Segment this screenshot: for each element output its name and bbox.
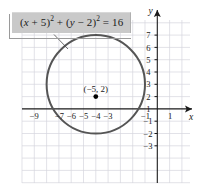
x-tick-label--3: −3: [104, 111, 113, 121]
equation-plus-inner: +: [29, 16, 41, 28]
x-tick-label--7: −7: [55, 111, 64, 121]
leader-line: [54, 35, 68, 50]
equation-label: (x + 5)2 + (y − 2)2 = 16: [12, 12, 131, 33]
y-tick-label-5: 5: [146, 55, 150, 65]
y-tick-label--2: −2: [143, 129, 152, 139]
y-tick-label--3: −3: [143, 141, 152, 151]
x-tick-label--5: −5: [79, 111, 88, 121]
y-tick-label-3: 3: [146, 79, 150, 89]
y-tick-label-7: 7: [146, 30, 150, 40]
x-tick-label--4: −4: [91, 111, 101, 121]
center-point-label: (−5, 2): [84, 84, 109, 94]
y-axis-label: y: [147, 6, 153, 16]
equation-minus: −: [75, 16, 87, 28]
y-tick-label-2: 2: [146, 92, 150, 102]
x-tick-label--6: −6: [67, 111, 76, 121]
x-axis-label: x: [188, 112, 194, 122]
grid-vertical: [22, 20, 182, 183]
x-tick-label--9: −9: [30, 111, 39, 121]
equation-plus-middle: +: [54, 16, 66, 28]
x-tick-label-1: 1: [168, 111, 172, 121]
center-point-marker: [93, 94, 98, 99]
y-tick-label--1: −1: [143, 116, 152, 126]
y-tick-label-1: 1: [146, 104, 150, 114]
equation-rhs: 16: [112, 16, 123, 28]
equation-equals: =: [100, 16, 112, 28]
y-tick-label-6: 6: [146, 43, 150, 53]
grid-horizontal: [22, 23, 190, 183]
circle-graph-figure: −9 −7 −6 −5 −4 −3 −1 1 7 6 5 4 3 2 1 −1 …: [0, 0, 205, 187]
